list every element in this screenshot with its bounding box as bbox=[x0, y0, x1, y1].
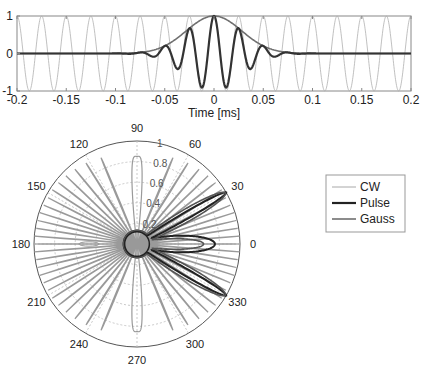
x-tick-label: -0.1 bbox=[105, 93, 126, 107]
legend-label: Gauss bbox=[360, 212, 395, 226]
polar-angle-label: 240 bbox=[70, 338, 88, 350]
figure: -0.2-0.15-0.1-0.0500.050.10.150.2 10-1 T… bbox=[0, 0, 424, 365]
polar-angle-label: 330 bbox=[228, 296, 246, 308]
legend: CWPulseGauss bbox=[326, 175, 405, 232]
polar-angle-label: 30 bbox=[231, 180, 243, 192]
polar-center-hub bbox=[125, 232, 150, 257]
time-domain-plot: -0.2-0.15-0.1-0.0500.050.10.150.2 10-1 T… bbox=[2, 9, 419, 120]
polar-angle-label: 60 bbox=[189, 138, 201, 150]
y-tick-label: 1 bbox=[6, 9, 13, 23]
top-plot-xlabel: Time [ms] bbox=[188, 106, 240, 120]
polar-radial-label: 0.8 bbox=[153, 158, 167, 169]
polar-angle-label: 210 bbox=[27, 296, 45, 308]
x-tick-label: 0.2 bbox=[403, 93, 420, 107]
x-tick-label: -0.15 bbox=[53, 93, 81, 107]
polar-angle-label: 90 bbox=[131, 122, 143, 134]
polar-angle-label: 300 bbox=[186, 338, 204, 350]
x-tick-label: 0.05 bbox=[252, 93, 276, 107]
polar-angle-label: 150 bbox=[27, 180, 45, 192]
polar-radial-label: 0.2 bbox=[143, 219, 157, 230]
x-tick-label: 0.1 bbox=[304, 93, 321, 107]
polar-angle-label: 0 bbox=[250, 238, 256, 250]
polar-radial-label: 0.4 bbox=[146, 198, 160, 209]
legend-label: CW bbox=[360, 180, 381, 194]
polar-angle-label: 270 bbox=[128, 354, 146, 365]
y-tick-label: -1 bbox=[2, 84, 13, 98]
x-tick-label: 0.15 bbox=[350, 93, 374, 107]
polar-angle-label: 120 bbox=[70, 138, 88, 150]
y-tick-label: 0 bbox=[6, 47, 13, 61]
polar-radial-label: 1 bbox=[157, 138, 163, 149]
polar-radial-label: 0.6 bbox=[150, 178, 164, 189]
polar-angle-label: 180 bbox=[12, 238, 30, 250]
x-tick-label: -0.05 bbox=[151, 93, 179, 107]
legend-label: Pulse bbox=[360, 196, 390, 210]
x-tick-label: 0 bbox=[211, 93, 218, 107]
polar-beam-pattern-plot: 0306090120150180210240270300330 0.20.40.… bbox=[12, 122, 256, 365]
